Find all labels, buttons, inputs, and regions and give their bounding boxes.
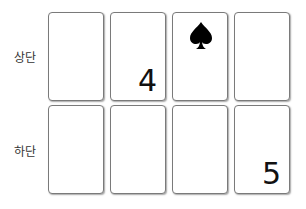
card-bottom-1[interactable] (48, 105, 104, 194)
spade-icon (188, 21, 214, 51)
card-top-1[interactable] (48, 12, 104, 101)
card-bottom-3[interactable] (172, 105, 228, 194)
card-bottom-2[interactable] (110, 105, 166, 194)
row-label-bottom: 하단 (8, 142, 42, 159)
card-number: 5 (262, 159, 281, 189)
card-bottom-4[interactable]: 5 (234, 105, 290, 194)
card-top-4[interactable] (234, 12, 290, 101)
card-top-3[interactable] (172, 12, 228, 101)
card-top-2[interactable]: 4 (110, 12, 166, 101)
card-number: 4 (138, 66, 157, 96)
row-label-top: 상단 (8, 48, 42, 65)
